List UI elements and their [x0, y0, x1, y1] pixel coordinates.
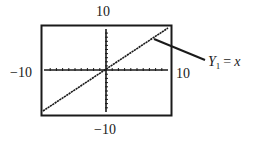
calculator-graph-figure: 10 −10 10 −10 Y1=x — [0, 0, 253, 141]
function-equals: = — [223, 54, 231, 69]
function-expr: x — [234, 54, 240, 69]
xmin-label: −10 — [10, 66, 32, 80]
function-label: Y1=x — [208, 55, 240, 73]
callout-leader-line — [154, 39, 205, 60]
axes — [44, 29, 168, 112]
function-subscript: 1 — [216, 61, 221, 71]
ymin-label: −10 — [94, 123, 116, 137]
ymax-label: 10 — [96, 5, 110, 19]
xmax-label: 10 — [176, 67, 190, 81]
function-var: Y — [208, 54, 216, 69]
